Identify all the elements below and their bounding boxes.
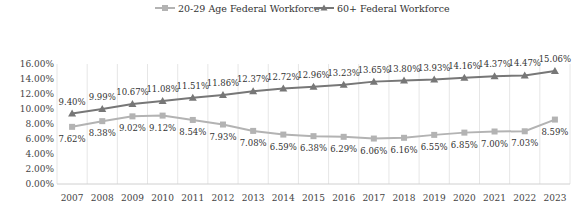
square-marker[interactable]	[401, 135, 407, 141]
x-tick-label: 2011	[181, 193, 204, 203]
data-label: 9.02%	[119, 123, 146, 133]
y-tick-label: 2.00%	[25, 164, 54, 174]
square-marker[interactable]	[492, 129, 498, 135]
square-marker[interactable]	[220, 122, 226, 128]
y-tick-label: 0.00%	[25, 179, 54, 189]
x-tick-label: 2012	[212, 193, 235, 203]
square-marker[interactable]	[311, 133, 317, 139]
x-axis: 2007200820092010201120122013201420152016…	[61, 193, 567, 203]
square-marker[interactable]	[461, 130, 467, 136]
data-label: 9.40%	[59, 97, 86, 107]
y-tick-label: 8.00%	[25, 119, 54, 129]
data-label: 6.06%	[360, 146, 387, 156]
square-marker[interactable]	[69, 124, 75, 130]
data-label: 12.72%	[267, 72, 299, 82]
data-label: 7.00%	[481, 139, 508, 149]
x-tick-label: 2022	[513, 193, 536, 203]
y-tick-label: 14.00%	[20, 74, 55, 84]
data-label: 7.93%	[209, 132, 236, 142]
square-marker[interactable]	[280, 132, 286, 138]
x-tick-label: 2015	[302, 193, 325, 203]
legend-square-marker-icon	[162, 5, 168, 11]
data-label: 12.37%	[237, 74, 269, 84]
x-tick-label: 2010	[151, 193, 174, 203]
legend-label-60-plus: 60+ Federal Workforce	[337, 3, 450, 14]
data-label: 13.23%	[327, 68, 359, 78]
series-60-plus: 9.40%9.99%10.67%11.08%11.51%11.86%12.37%…	[59, 54, 572, 116]
x-tick-label: 2021	[483, 193, 506, 203]
square-marker[interactable]	[160, 113, 166, 119]
legend-label-20-29: 20-29 Age Federal Workforce	[178, 3, 320, 14]
x-tick-label: 2013	[242, 193, 265, 203]
y-tick-label: 16.00%	[20, 59, 55, 69]
data-label: 12.96%	[297, 70, 329, 80]
data-label: 14.37%	[478, 59, 510, 69]
line-chart: 20-29 Age Federal Workforce 60+ Federal …	[0, 0, 575, 214]
data-label: 11.51%	[177, 81, 209, 91]
square-marker[interactable]	[371, 136, 377, 142]
y-tick-label: 10.00%	[20, 104, 55, 114]
legend: 20-29 Age Federal Workforce 60+ Federal …	[155, 3, 450, 14]
legend-item-20-29[interactable]: 20-29 Age Federal Workforce	[155, 3, 320, 14]
y-tick-label: 12.00%	[20, 89, 55, 99]
square-marker[interactable]	[522, 128, 528, 134]
data-label: 11.86%	[207, 78, 239, 88]
square-marker[interactable]	[431, 132, 437, 138]
data-label: 8.38%	[89, 128, 116, 138]
data-label: 14.47%	[509, 58, 541, 68]
x-tick-label: 2007	[61, 193, 84, 203]
data-label: 11.08%	[146, 84, 178, 94]
data-label: 6.16%	[391, 145, 418, 155]
data-label: 7.08%	[240, 138, 267, 148]
y-axis: 0.00%2.00%4.00%6.00%8.00%10.00%12.00%14.…	[20, 59, 55, 189]
data-label: 13.65%	[358, 65, 390, 75]
data-label: 13.93%	[418, 63, 450, 73]
square-marker[interactable]	[341, 134, 347, 140]
square-marker[interactable]	[99, 118, 105, 124]
x-tick-label: 2016	[332, 193, 355, 203]
data-label: 13.80%	[388, 64, 420, 74]
series-layer: 7.62%8.38%9.02%9.12%8.54%7.93%7.08%6.59%…	[59, 54, 572, 156]
x-tick-label: 2014	[272, 193, 295, 203]
square-marker[interactable]	[552, 117, 558, 123]
square-marker[interactable]	[190, 117, 196, 123]
data-label: 7.03%	[511, 138, 538, 148]
data-label: 8.54%	[179, 127, 206, 137]
data-label: 6.85%	[451, 140, 478, 150]
data-label: 6.38%	[300, 143, 327, 153]
square-marker[interactable]	[129, 113, 135, 119]
x-tick-label: 2020	[453, 193, 476, 203]
square-marker[interactable]	[250, 128, 256, 134]
data-label: 14.16%	[448, 61, 480, 71]
data-label: 15.06%	[539, 54, 571, 64]
data-label: 6.59%	[270, 142, 297, 152]
data-label: 9.99%	[89, 92, 116, 102]
series-20-29: 7.62%8.38%9.02%9.12%8.54%7.93%7.08%6.59%…	[59, 113, 569, 156]
data-label: 10.67%	[116, 87, 148, 97]
x-tick-label: 2009	[121, 193, 144, 203]
y-tick-label: 4.00%	[25, 149, 54, 159]
data-label: 9.12%	[149, 123, 176, 133]
x-tick-label: 2023	[543, 193, 566, 203]
data-label: 6.55%	[421, 142, 448, 152]
y-tick-label: 6.00%	[25, 134, 54, 144]
x-tick-label: 2017	[362, 193, 385, 203]
legend-item-60-plus[interactable]: 60+ Federal Workforce	[314, 3, 450, 14]
data-label: 6.29%	[330, 144, 357, 154]
data-label: 7.62%	[59, 134, 86, 144]
data-label: 8.59%	[541, 127, 568, 137]
x-tick-label: 2008	[91, 193, 114, 203]
x-tick-label: 2018	[393, 193, 416, 203]
x-tick-label: 2019	[423, 193, 446, 203]
